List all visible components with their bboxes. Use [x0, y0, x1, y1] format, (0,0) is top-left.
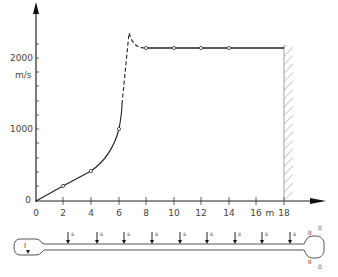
y-axis: 0 1000 2000 m/s [10, 2, 39, 205]
station-s: s [122, 230, 130, 244]
station-s: s [205, 230, 213, 244]
x-tick-label: 18 [278, 208, 290, 218]
data-point [117, 127, 120, 130]
data-point [144, 46, 147, 49]
x-tick-label: 14 [223, 208, 235, 218]
right-label-top: II [308, 229, 312, 236]
x-tick-label: 10 [168, 208, 180, 218]
x-tick-label: 0 [33, 208, 39, 218]
data-point [227, 46, 230, 49]
x-tick-label: 6 [116, 208, 122, 218]
right-label-top-zero: 0 [318, 224, 322, 231]
svg-text:s: s [71, 230, 74, 237]
x-tick-label: 2 [60, 208, 66, 218]
left-chamber-label: I [24, 242, 26, 250]
x-tick-label: 8 [143, 208, 149, 218]
station-s: s [66, 230, 74, 244]
y-tick-label: 2000 [10, 53, 33, 63]
data-markers [61, 46, 230, 187]
curve-dashed-transition [122, 33, 146, 104]
left-chamber [14, 236, 324, 258]
station-s: s [95, 230, 103, 244]
y-tick-label: 0 [25, 195, 31, 205]
y-axis-arrow-icon [33, 2, 39, 14]
x-tick-label: 12 [195, 208, 206, 218]
station-markers: s s s s s s s s s [66, 230, 296, 244]
figure: 0 1000 2000 m/s 0 2 4 6 8 10 12 14 16 m … [0, 0, 338, 277]
svg-text:s: s [210, 230, 213, 237]
y-tick-label: 1000 [10, 124, 33, 134]
hatched-wall [284, 45, 293, 201]
x-axis-arrow-icon [310, 198, 326, 204]
data-point [89, 169, 92, 172]
data-point [61, 184, 64, 187]
svg-text:s: s [183, 230, 186, 237]
launcher-diagram: I s s s s s s s s s II 0 II 0 [14, 224, 324, 270]
velocity-curve [36, 33, 284, 201]
svg-text:s: s [293, 230, 296, 237]
data-point [172, 46, 175, 49]
svg-text:s: s [155, 230, 158, 237]
right-label-bottom: II [308, 258, 312, 265]
x-tick-label: 4 [88, 208, 94, 218]
svg-text:s: s [238, 230, 241, 237]
x-axis-unit: m [266, 208, 275, 218]
y-axis-unit: m/s [15, 70, 32, 80]
right-label-bottom-zero: 0 [318, 263, 322, 270]
station-s: s [260, 230, 268, 244]
station-s: s [288, 230, 296, 244]
station-s: s [233, 230, 241, 244]
x-tick-label: 16 [250, 208, 262, 218]
svg-text:s: s [100, 230, 103, 237]
curve-solid-rising [36, 104, 122, 201]
svg-text:s: s [127, 230, 130, 237]
data-point [199, 46, 202, 49]
svg-text:s: s [265, 230, 268, 237]
station-s: s [150, 230, 158, 244]
station-s: s [178, 230, 186, 244]
x-axis: 0 2 4 6 8 10 12 14 16 m 18 [33, 197, 326, 218]
